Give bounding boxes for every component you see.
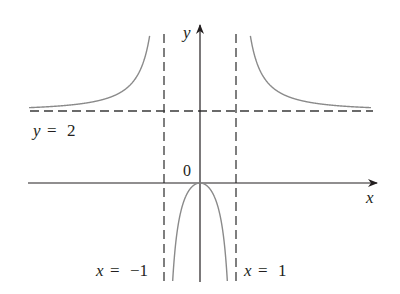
function-graph: y x 0 y = 2 x = −1 x = 1: [0, 0, 400, 294]
svg-text:=: =: [258, 261, 268, 280]
svg-text:1: 1: [278, 261, 287, 280]
origin-label: 0: [183, 162, 191, 179]
svg-text:−1: −1: [130, 261, 148, 280]
horizontal-asymptote-label: y = 2: [31, 121, 76, 140]
x-axis-label: x: [365, 188, 374, 207]
curve-right-branch: [250, 36, 371, 108]
svg-text:=: =: [47, 121, 57, 140]
svg-text:x: x: [243, 261, 252, 280]
svg-text:y: y: [31, 121, 41, 140]
y-axis-label: y: [181, 23, 191, 42]
vertical-asymptote-left-label: x = −1: [95, 261, 148, 280]
vertical-asymptote-right-label: x = 1: [243, 261, 287, 280]
svg-text:2: 2: [67, 121, 76, 140]
svg-text:x: x: [95, 261, 104, 280]
curve-left-branch: [29, 36, 150, 108]
svg-text:=: =: [110, 261, 120, 280]
